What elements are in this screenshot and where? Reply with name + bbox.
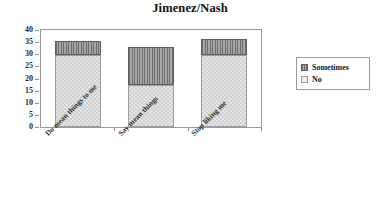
y-tick-mark [35, 66, 39, 67]
y-tick-label: 20 [0, 75, 33, 83]
legend-label: No [312, 75, 322, 84]
y-tick-mark [35, 115, 39, 116]
bar-segment-sometimes[interactable] [201, 39, 247, 56]
legend-swatch-icon [301, 76, 308, 83]
legend-item[interactable]: Sometimes [301, 62, 365, 73]
y-tick-mark [35, 54, 39, 55]
y-tick-mark [35, 30, 39, 31]
y-tick-mark [35, 127, 39, 128]
y-tick-label: 0 [0, 123, 33, 131]
y-tick-label: 25 [0, 62, 33, 70]
x-tick-mark [261, 128, 262, 131]
bar-segment-sometimes[interactable] [128, 47, 174, 85]
y-tick-label: 5 [0, 111, 33, 119]
legend-item[interactable]: No [301, 74, 365, 85]
bar-segment-sometimes[interactable] [55, 41, 101, 56]
legend-label: Sometimes [312, 63, 349, 72]
legend-swatch-icon [301, 64, 308, 71]
y-tick-label: 35 [0, 38, 33, 46]
y-tick-mark [35, 91, 39, 92]
y-tick-label: 10 [0, 99, 33, 107]
y-tick-mark [35, 103, 39, 104]
chart-title: Jimenez/Nash [0, 1, 380, 16]
y-tick-label: 30 [0, 50, 33, 58]
y-axis: 0510152025303540 [0, 29, 33, 128]
y-tick-label: 15 [0, 87, 33, 95]
chart-figure: Jimenez/Nash 0510152025303540 SometimesN… [0, 0, 380, 214]
chart-legend: SometimesNo [296, 57, 370, 90]
y-tick-mark [35, 79, 39, 80]
y-tick-label: 40 [0, 26, 33, 34]
y-tick-mark [35, 42, 39, 43]
